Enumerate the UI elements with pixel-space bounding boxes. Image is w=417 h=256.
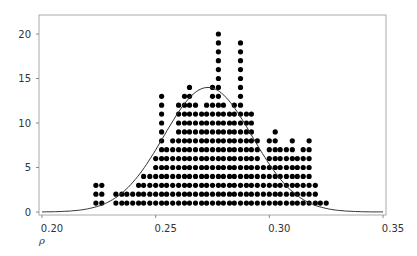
dot — [301, 183, 306, 188]
dot — [182, 156, 187, 161]
dot — [193, 103, 198, 108]
dot — [210, 156, 215, 161]
dot — [159, 183, 164, 188]
dot — [187, 147, 192, 152]
dot — [210, 201, 215, 206]
dot — [284, 165, 289, 170]
dot — [295, 156, 300, 161]
dot — [182, 94, 187, 99]
dot — [301, 147, 306, 152]
dot — [307, 138, 312, 143]
dot — [153, 192, 158, 197]
dot — [255, 183, 260, 188]
dot — [227, 201, 232, 206]
dot — [193, 120, 198, 125]
dot — [295, 201, 300, 206]
dot — [199, 156, 204, 161]
dot — [255, 165, 260, 170]
dot — [164, 201, 169, 206]
dot — [307, 183, 312, 188]
dot — [238, 192, 243, 197]
dot — [182, 192, 187, 197]
dot — [244, 192, 249, 197]
x-axis-label: ρ — [38, 235, 45, 246]
dot — [187, 201, 192, 206]
y-tick-label: 15 — [18, 73, 31, 84]
dot — [182, 112, 187, 117]
dot — [93, 183, 98, 188]
dot — [182, 147, 187, 152]
dot — [113, 201, 118, 206]
dot — [318, 201, 323, 206]
dot — [141, 192, 146, 197]
dot — [227, 156, 232, 161]
dot — [210, 174, 215, 179]
dot — [159, 147, 164, 152]
dot — [164, 174, 169, 179]
dot — [238, 129, 243, 134]
dot — [273, 183, 278, 188]
dot — [284, 201, 289, 206]
dot — [130, 192, 135, 197]
dot — [159, 165, 164, 170]
dot — [232, 183, 237, 188]
dot — [187, 129, 192, 134]
dot — [193, 138, 198, 143]
dot — [164, 183, 169, 188]
dot — [187, 103, 192, 108]
y-tick-label: 20 — [18, 29, 31, 40]
dot — [232, 112, 237, 117]
dot — [295, 165, 300, 170]
dot — [244, 138, 249, 143]
dot — [159, 94, 164, 99]
dot — [278, 183, 283, 188]
dot — [232, 201, 237, 206]
dot — [182, 129, 187, 134]
dot — [164, 165, 169, 170]
dot — [182, 138, 187, 143]
dot — [227, 147, 232, 152]
dot — [199, 174, 204, 179]
dot — [221, 201, 226, 206]
dot — [147, 201, 152, 206]
dot — [221, 129, 226, 134]
dot — [141, 183, 146, 188]
dot — [99, 183, 104, 188]
dot — [141, 174, 146, 179]
dot — [204, 147, 209, 152]
dot — [273, 192, 278, 197]
dot — [164, 147, 169, 152]
dot — [176, 201, 181, 206]
dot — [249, 147, 254, 152]
dot — [284, 156, 289, 161]
dot — [164, 192, 169, 197]
dot — [238, 138, 243, 143]
dot — [273, 201, 278, 206]
dot — [249, 165, 254, 170]
dot — [227, 120, 232, 125]
dot — [290, 165, 295, 170]
dot — [193, 112, 198, 117]
dot — [307, 147, 312, 152]
y-tick-label: 5 — [25, 162, 31, 173]
dot — [290, 138, 295, 143]
dot — [210, 103, 215, 108]
dot — [153, 165, 158, 170]
dot — [216, 40, 221, 45]
dot — [193, 129, 198, 134]
dot — [176, 120, 181, 125]
dot — [193, 165, 198, 170]
dot — [130, 201, 135, 206]
dot — [267, 174, 272, 179]
dot — [210, 183, 215, 188]
dot — [170, 165, 175, 170]
dot — [187, 138, 192, 143]
dot — [278, 192, 283, 197]
dot — [176, 183, 181, 188]
dot — [238, 76, 243, 81]
dot — [193, 192, 198, 197]
dot — [295, 183, 300, 188]
dot — [147, 174, 152, 179]
dot — [210, 120, 215, 125]
dot-columns — [93, 31, 329, 205]
